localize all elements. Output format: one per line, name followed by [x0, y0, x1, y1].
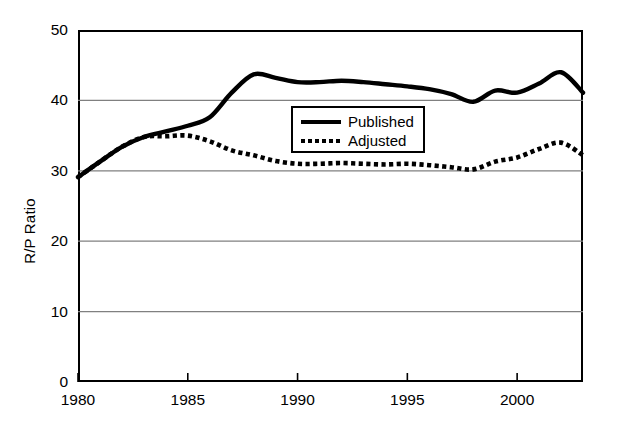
x-axis-ticks [78, 382, 583, 391]
chart-figure: R/P Ratio 01020304050 198019851990199520… [0, 0, 621, 435]
plot-canvas [78, 30, 583, 382]
x-tick-label: 2000 [477, 392, 557, 408]
x-tick-label: 1980 [38, 392, 118, 408]
legend-solid-line-icon [301, 116, 341, 128]
x-tick-label: 1985 [148, 392, 228, 408]
x-tick-label: 1995 [367, 392, 447, 408]
y-tick-label: 0 [22, 374, 68, 390]
y-axis-title: R/P Ratio [21, 131, 43, 331]
chart-legend: Published Adjusted [291, 106, 425, 153]
legend-item-published: Published [301, 112, 423, 131]
y-tick-label: 50 [22, 22, 68, 38]
x-tick-label: 1990 [258, 392, 338, 408]
legend-item-adjusted: Adjusted [301, 131, 423, 150]
y-tick-label: 40 [22, 92, 68, 108]
y-tick-label: 10 [22, 304, 68, 320]
y-tick-label: 20 [22, 233, 68, 249]
legend-dotted-line-icon [301, 135, 341, 147]
legend-label-adjusted: Adjusted [348, 133, 406, 148]
y-tick-label: 30 [22, 163, 68, 179]
legend-label-published: Published [348, 114, 414, 129]
